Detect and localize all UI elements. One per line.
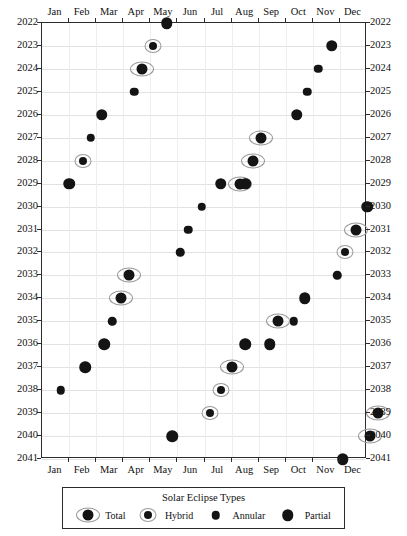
legend-item-total[interactable]: Total xyxy=(76,508,125,522)
x-tick-top xyxy=(95,18,96,22)
marker-core xyxy=(272,316,283,327)
x-tick-bottom xyxy=(176,458,177,462)
x-tick-top xyxy=(204,18,205,22)
legend-item-hybrid[interactable]: Hybrid xyxy=(136,508,193,522)
solar-eclipse-chart: 2022202220232023202420242025202520262026… xyxy=(0,0,407,536)
marker-core xyxy=(303,88,312,97)
y-axis-label-right: 2031 xyxy=(370,224,391,235)
y-axis-label-left: 2022 xyxy=(17,17,38,28)
y-axis-label-right: 2028 xyxy=(370,155,391,166)
y-axis-label-left: 2039 xyxy=(17,407,38,418)
marker-core xyxy=(99,339,111,351)
legend-item-annular[interactable]: Annular xyxy=(204,508,266,522)
marker-core xyxy=(184,225,193,234)
y-axis-label-left: 2040 xyxy=(17,430,38,441)
y-axis-label-right: 2027 xyxy=(370,132,391,143)
x-tick-top xyxy=(312,18,313,22)
x-tick-bottom xyxy=(339,458,340,462)
marker-core xyxy=(63,178,75,190)
marker-core xyxy=(137,63,148,74)
chart-legend: Solar Eclipse Types TotalHybridAnnularPa… xyxy=(62,487,345,529)
y-axis-label-left: 2028 xyxy=(17,155,38,166)
y-axis-label-right: 2038 xyxy=(370,384,391,395)
legend-swatch-annular xyxy=(204,508,228,522)
marker-core xyxy=(217,386,225,394)
y-axis-label-left: 2031 xyxy=(17,224,38,235)
marker-core xyxy=(341,248,349,256)
y-axis-label-right: 2035 xyxy=(370,315,391,326)
marker-core xyxy=(83,510,94,521)
marker-core xyxy=(123,270,134,281)
x-tick-bottom xyxy=(95,458,96,462)
y-axis-label-left: 2035 xyxy=(17,315,38,326)
y-axis-label-left: 2041 xyxy=(17,453,38,464)
marker-core xyxy=(239,178,251,190)
marker-core xyxy=(166,430,178,442)
marker-core xyxy=(282,509,294,521)
x-tick-top xyxy=(176,18,177,22)
legend-swatch-partial xyxy=(276,508,300,522)
x-axis-label-bottom: Dec xyxy=(332,465,372,476)
x-tick-bottom xyxy=(231,458,232,462)
y-axis-label-left: 2026 xyxy=(17,109,38,120)
legend-items: TotalHybridAnnularPartial xyxy=(63,508,344,522)
y-axis-label-left: 2034 xyxy=(17,292,38,303)
y-axis-label-right: 2034 xyxy=(370,292,391,303)
legend-title: Solar Eclipse Types xyxy=(63,492,344,503)
marker-core xyxy=(144,511,152,519)
y-axis-label-left: 2027 xyxy=(17,132,38,143)
marker-core xyxy=(198,202,207,211)
marker-core xyxy=(215,178,227,190)
x-tick-bottom xyxy=(285,458,286,462)
y-axis-label-right: 2024 xyxy=(370,63,391,74)
y-axis-label-right: 2040 xyxy=(370,430,391,441)
y-axis-label-left: 2024 xyxy=(17,63,38,74)
y-axis-label-left: 2029 xyxy=(17,178,38,189)
x-tick-bottom xyxy=(204,458,205,462)
marker-core xyxy=(314,65,323,74)
x-tick-top xyxy=(231,18,232,22)
y-axis-label-left: 2037 xyxy=(17,361,38,372)
x-tick-top xyxy=(149,18,150,22)
marker-core xyxy=(264,339,276,351)
marker-core xyxy=(326,40,338,52)
y-axis-label-right: 2037 xyxy=(370,361,391,372)
x-tick-top xyxy=(258,18,259,22)
y-axis-label-right: 2026 xyxy=(370,109,391,120)
marker-core xyxy=(299,293,311,305)
y-axis-label-right: 2039 xyxy=(370,407,391,418)
y-axis-label-right: 2032 xyxy=(370,246,391,257)
x-axis-label-top: Dec xyxy=(332,7,372,18)
y-axis-label-right: 2041 xyxy=(370,453,391,464)
marker-core xyxy=(96,109,108,121)
legend-swatch-total xyxy=(76,508,100,522)
y-axis-label-left: 2036 xyxy=(17,338,38,349)
marker-core xyxy=(291,109,303,121)
marker-core xyxy=(351,224,362,235)
legend-label: Annular xyxy=(233,510,266,521)
marker-core xyxy=(161,17,173,29)
marker-core xyxy=(115,293,126,304)
y-axis-label-left: 2038 xyxy=(17,384,38,395)
y-axis-label-left: 2025 xyxy=(17,86,38,97)
y-axis-label-left: 2032 xyxy=(17,246,38,257)
x-tick-bottom xyxy=(149,458,150,462)
y-axis-label-right: 2033 xyxy=(370,269,391,280)
marker-core xyxy=(87,133,96,142)
marker-core xyxy=(79,157,87,165)
legend-item-partial[interactable]: Partial xyxy=(276,508,331,522)
marker-core xyxy=(226,362,237,373)
y-axis-label-right: 2025 xyxy=(370,86,391,97)
marker-core xyxy=(108,317,117,326)
marker-core xyxy=(248,155,259,166)
x-tick-top xyxy=(285,18,286,22)
y-axis-label-left: 2030 xyxy=(17,201,38,212)
plot-area xyxy=(41,22,366,458)
x-tick-top xyxy=(122,18,123,22)
x-tick-bottom xyxy=(258,458,259,462)
marker-core xyxy=(130,88,139,97)
marker-core xyxy=(211,511,220,520)
y-axis-label-left: 2023 xyxy=(17,40,38,51)
x-tick-bottom xyxy=(68,458,69,462)
legend-label: Total xyxy=(105,510,125,521)
